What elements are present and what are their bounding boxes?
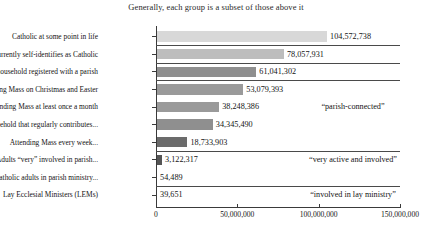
- bar-row: Currently self-identifies as Catholic78,…: [0, 46, 432, 64]
- bar: [157, 102, 219, 113]
- x-axis: 050,000,000100,000,000150,000,000: [0, 204, 432, 234]
- bar-value-label: 61,041,302: [259, 63, 296, 81]
- category-tick: [152, 124, 156, 125]
- bar-chart: Generally, each group is a subset of tho…: [0, 0, 432, 234]
- bar: [157, 49, 284, 60]
- group-separator: [156, 186, 400, 187]
- bar-value-label: 54,489: [160, 169, 183, 187]
- bar: [157, 155, 162, 166]
- bar-value-label: 38,248,386: [222, 98, 259, 116]
- bar: [157, 84, 243, 95]
- category-label: Attending Mass every week...: [10, 134, 98, 152]
- category-tick: [152, 195, 156, 196]
- group-separator: [156, 151, 400, 152]
- bar-value-label: 78,057,931: [287, 46, 324, 64]
- bar-value-label: 39,651: [160, 186, 183, 204]
- bar-value-label: 53,079,393: [246, 81, 283, 99]
- x-axis-line: [156, 207, 400, 208]
- x-tick-label: 0: [154, 210, 158, 219]
- bar: [157, 119, 213, 130]
- bar-row: Catholic at some point in life104,572,73…: [0, 28, 432, 46]
- bar: [157, 137, 187, 148]
- category-tick: [152, 54, 156, 55]
- category-tick: [152, 36, 156, 37]
- bar-value-label: 3,122,317: [165, 151, 198, 169]
- bar-row: Lay Catholic adults in parish ministry..…: [0, 169, 432, 187]
- x-tick-label: 50,000,000: [220, 210, 254, 219]
- category-tick: [152, 142, 156, 143]
- category-label: Lay Ecclesial Ministers (LEMs): [3, 186, 98, 204]
- bar-row: In a household registered with a parish6…: [0, 63, 432, 81]
- category-label: In a household registered with a parish: [0, 63, 98, 81]
- x-tick-label: 100,000,000: [300, 210, 338, 219]
- category-label: In a household that regularly contribute…: [0, 116, 98, 134]
- bar-row: Attending Mass every week...18,733,903: [0, 134, 432, 152]
- x-tick-mark: [237, 204, 238, 208]
- bar: [157, 31, 327, 42]
- category-label: Attending Mass on Christmas and Easter: [0, 81, 98, 99]
- x-tick-mark: [400, 204, 401, 208]
- category-label: Adults “very” involved in parish...: [0, 151, 98, 169]
- group-separator: [156, 63, 400, 64]
- x-tick-label: 150,000,000: [381, 210, 419, 219]
- bar-row: In a household that regularly contribute…: [0, 116, 432, 134]
- category-tick: [152, 107, 156, 108]
- chart-title: Generally, each group is a subset of tho…: [0, 2, 432, 12]
- category-tick: [152, 177, 156, 178]
- annotation-label: “involved in lay ministry”: [278, 190, 428, 199]
- bar-row: Attending Mass on Christmas and Easter53…: [0, 81, 432, 99]
- annotation-label: “very active and involved”: [278, 155, 428, 164]
- x-tick-mark: [156, 204, 157, 208]
- category-label: Currently self-identifies as Catholic: [0, 46, 98, 64]
- category-label: Catholic at some point in life: [12, 28, 98, 46]
- category-tick: [152, 89, 156, 90]
- category-label: Lay Catholic adults in parish ministry..…: [0, 169, 98, 187]
- bar-value-label: 18,733,903: [190, 134, 227, 152]
- bar: [157, 67, 256, 78]
- category-tick: [152, 159, 156, 160]
- category-label: Attending Mass at least once a month: [0, 98, 98, 116]
- category-tick: [152, 71, 156, 72]
- group-separator: [156, 80, 400, 81]
- bar-value-label: 104,572,738: [330, 28, 371, 46]
- group-separator: [156, 45, 400, 46]
- bar-value-label: 34,345,490: [216, 116, 253, 134]
- annotation-label: “parish-connected”: [278, 102, 428, 111]
- x-tick-mark: [319, 204, 320, 208]
- plot-area: Catholic at some point in life104,572,73…: [0, 26, 432, 204]
